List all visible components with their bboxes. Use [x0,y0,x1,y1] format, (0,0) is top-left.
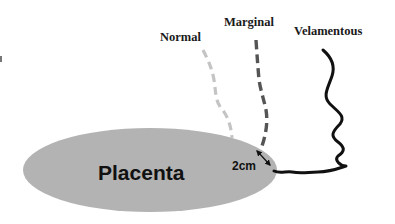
cord-insertion-diagram: Placenta 2cm Normal Marginal Velamentous [0,0,395,224]
normal-cord [203,50,232,138]
marginal-cord [256,40,267,146]
placenta-label: Placenta [98,161,185,184]
marginal-cord-label: Marginal [224,15,275,29]
velamentous-cord [274,50,346,173]
velamentous-cord-label: Velamentous [294,24,362,38]
distance-label: 2cm [232,159,256,173]
normal-cord-label: Normal [160,30,201,44]
